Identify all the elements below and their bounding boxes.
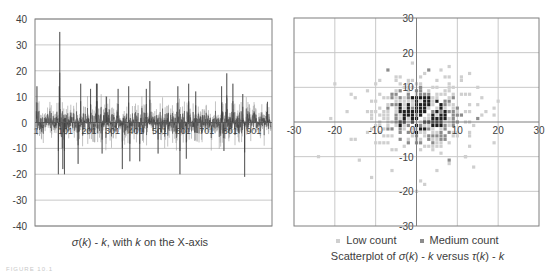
scatter-point — [439, 131, 442, 134]
scatter-point — [431, 117, 434, 120]
scatter-point — [386, 113, 389, 116]
figure-label: FIGURE 10.1 — [6, 266, 53, 272]
scatter-legend: Low count Medium count — [280, 234, 555, 246]
scatter-point — [431, 138, 434, 141]
scatter-point — [468, 103, 471, 106]
scatter-point — [460, 75, 463, 78]
scatter-point — [492, 113, 495, 116]
scatter-point — [394, 113, 397, 116]
scatter-point — [427, 113, 430, 116]
scatter-point — [448, 117, 451, 120]
scatter-point — [472, 124, 475, 127]
scatter-point — [468, 93, 471, 96]
scatter-point — [423, 127, 426, 130]
scatter-point — [423, 93, 426, 96]
scatter-point — [407, 100, 410, 103]
scatter-point — [407, 107, 410, 110]
scatter-point — [407, 138, 410, 141]
scatter-point — [435, 110, 438, 113]
x-tick-label: 901 — [246, 126, 261, 136]
scatter-point — [431, 103, 434, 106]
tau-symbol: τ — [472, 250, 476, 262]
scatter-point — [374, 110, 377, 113]
scatter-point — [439, 93, 442, 96]
scatter-point — [411, 103, 414, 106]
scatter-point — [419, 100, 422, 103]
scatter-point — [394, 148, 397, 151]
scatter-point — [403, 117, 406, 120]
scatter-point — [382, 110, 385, 113]
scatter-point — [399, 113, 402, 116]
scatter-point — [390, 103, 393, 106]
scatter-point — [427, 127, 430, 130]
scatter-point — [492, 107, 495, 110]
scatter-point — [386, 141, 389, 144]
scatter-point — [448, 110, 451, 113]
scatter-point — [448, 162, 451, 165]
x-tick-label: 201 — [82, 126, 97, 136]
low-count-marker-icon — [336, 239, 340, 243]
scatter-point — [399, 100, 402, 103]
scatter-point — [403, 107, 406, 110]
scatter-point — [403, 113, 406, 116]
scatter-point — [435, 113, 438, 116]
scatter-point — [394, 103, 397, 106]
scatter-point — [435, 124, 438, 127]
y-tick-label: 20 — [402, 48, 414, 59]
scatter-point — [419, 103, 422, 106]
scatter-point — [448, 103, 451, 106]
y-tick-label: -10 — [13, 143, 28, 154]
scatter-point — [476, 86, 479, 89]
scatter-point — [427, 124, 430, 127]
caption-text: on the X-axis — [141, 236, 208, 248]
scatter-point — [411, 61, 414, 64]
scatter-point — [492, 141, 495, 144]
legend-label: Low count — [346, 234, 396, 246]
scatter-point — [435, 107, 438, 110]
scatter-point — [378, 79, 381, 82]
scatter-point — [370, 117, 373, 120]
scatter-point — [472, 165, 475, 168]
series-line — [36, 73, 271, 153]
caption-text: Scatterplot of — [331, 250, 399, 262]
scatter-point — [419, 141, 422, 144]
x-tick-label: 801 — [223, 126, 238, 136]
scatter-point — [439, 113, 442, 116]
x-tick-label: 701 — [199, 126, 214, 136]
legend-item-low-count: Low count — [336, 234, 396, 246]
scatter-point — [382, 96, 385, 99]
caption-var-k: k — [409, 250, 415, 262]
scatter-point — [456, 110, 459, 113]
x-tick-label: -20 — [328, 125, 343, 136]
scatter-point — [374, 82, 377, 85]
scatter-point — [419, 89, 422, 92]
scatter-point — [407, 117, 410, 120]
scatter-point — [394, 107, 397, 110]
scatter-point — [390, 96, 393, 99]
scatter-point — [423, 72, 426, 75]
scatter-point — [411, 110, 414, 113]
scatter-point — [329, 117, 332, 120]
scatter-point — [431, 86, 434, 89]
scatter-point — [333, 82, 336, 85]
scatter-point — [443, 93, 446, 96]
scatter-point — [419, 110, 422, 113]
scatter-point — [443, 127, 446, 130]
scatter-chart-panel: -30-20-100102030302010-10-20-30 — [280, 0, 555, 260]
y-tick-label: -20 — [399, 186, 414, 197]
scatter-point — [435, 93, 438, 96]
scatter-point — [448, 96, 451, 99]
scatter-point — [378, 141, 381, 144]
scatter-point — [390, 93, 393, 96]
scatter-point — [370, 113, 373, 116]
scatter-point — [448, 159, 451, 162]
scatter-point — [399, 127, 402, 130]
y-tick-label: -20 — [13, 169, 28, 180]
scatter-point — [423, 96, 426, 99]
scatter-point — [452, 117, 455, 120]
scatter-point — [423, 103, 426, 106]
scatter-point — [411, 100, 414, 103]
x-tick-label: 0 — [410, 125, 416, 136]
x-tick-label: 1 — [33, 126, 38, 136]
scatter-point — [423, 100, 426, 103]
